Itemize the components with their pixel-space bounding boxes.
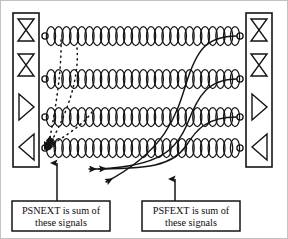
crosstalk-diagram: PSNEXT is sum of these signals PSFEXT is… [0, 0, 288, 239]
psfext-callout: PSFEXT is sum of these signals [142, 201, 240, 231]
psnext-callout-line2: these signals [35, 217, 87, 228]
psnext-callout: PSNEXT is sum of these signals [12, 201, 110, 231]
psnext-callout-line1: PSNEXT is sum of [22, 205, 101, 216]
pair-1-left-terminal [42, 33, 48, 39]
right-connector-block [246, 13, 272, 167]
right-connector-body [246, 13, 272, 167]
pair-2-left-terminal [42, 76, 48, 82]
left-connector-block [13, 13, 39, 167]
pair-3-left-terminal [42, 114, 48, 120]
diagram-canvas: PSNEXT is sum of these signals PSFEXT is… [0, 0, 288, 239]
psfext-callout-line2: these signals [165, 217, 217, 228]
left-connector-body [13, 13, 39, 167]
psfext-callout-line1: PSFEXT is sum of [153, 205, 230, 216]
